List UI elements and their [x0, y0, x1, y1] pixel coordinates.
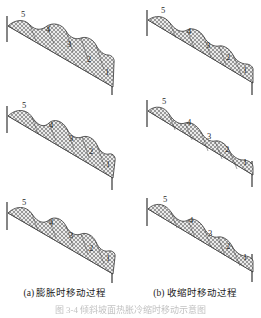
slope-body — [148, 107, 253, 175]
caption-row: (a) 膨胀时移动过程 (b) 收缩时移动过程 — [0, 283, 261, 303]
segment-label-5: 5 — [162, 96, 166, 106]
diagram-panel-a-step-1: 5 4 3 2 1 — [0, 0, 131, 95]
segment-label-1: 1 — [243, 65, 247, 75]
segment-label-1: 1 — [243, 252, 247, 262]
segment-label-5: 5 — [21, 9, 25, 19]
segment-label-3: 3 — [208, 228, 212, 238]
segment-label-2: 2 — [226, 52, 230, 62]
segment-label-5: 5 — [163, 194, 167, 204]
segment-label-2: 2 — [89, 243, 93, 253]
slope-body — [148, 204, 253, 272]
segment-label-3: 3 — [69, 133, 73, 143]
segment-label-1: 1 — [106, 253, 110, 263]
diagram-panel-b-step-2: 5 4 3 2 1 — [131, 95, 261, 190]
diagram-panel-b-step-3: 5 4 3 2 1 — [131, 190, 261, 285]
diagram-panel-a-step-3: 5 4 3 2 1 — [0, 190, 131, 285]
segment-label-1: 1 — [105, 67, 109, 77]
segment-label-5: 5 — [22, 100, 26, 110]
segment-label-1: 1 — [106, 159, 110, 169]
figure-root: 5 4 3 2 1 — [0, 0, 261, 318]
segment-label-2: 2 — [225, 144, 229, 154]
slope-body — [8, 208, 115, 275]
caption-a: (a) 膨胀时移动过程 — [0, 283, 130, 303]
slope-body — [148, 17, 253, 83]
panel-grid: 5 4 3 2 1 — [0, 0, 261, 285]
figure-title: 图 3-4 倾斜坡面热胀冷缩时移动示意图 — [0, 303, 261, 318]
segment-label-1: 1 — [243, 157, 247, 167]
segment-label-5: 5 — [22, 197, 26, 207]
diagram-panel-a-step-2: 5 4 3 2 1 — [0, 95, 131, 190]
segment-label-3: 3 — [206, 40, 210, 50]
segment-label-2: 2 — [89, 146, 93, 156]
diagram-panel-b-step-1: 5 4 3 2 1 — [131, 0, 261, 95]
slope-body — [8, 21, 114, 87]
segment-label-5: 5 — [161, 5, 165, 15]
segment-label-2: 2 — [226, 241, 230, 251]
segment-label-3: 3 — [69, 230, 73, 240]
segment-label-3: 3 — [67, 39, 71, 49]
segment-label-2: 2 — [87, 54, 91, 64]
slope-body — [8, 111, 115, 179]
caption-b: (b) 收缩时移动过程 — [130, 283, 260, 303]
segment-label-3: 3 — [207, 131, 211, 141]
